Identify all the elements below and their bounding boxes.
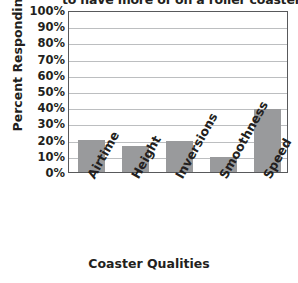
y-axis-tick-label: 10% (22, 151, 65, 162)
y-axis-tick-label: 50% (22, 87, 65, 98)
x-axis-title: Coaster Qualities (0, 256, 298, 271)
y-axis-tick-label: 80% (22, 38, 65, 49)
y-axis-tick-label: 100% (22, 6, 65, 17)
y-axis-tick-label: 90% (22, 22, 65, 33)
y-axis-tick-label: 30% (22, 119, 65, 130)
y-axis-tick-label: 60% (22, 70, 65, 81)
y-axis-tick-label: 40% (22, 103, 65, 114)
x-axis-tick-labels: AirtimeHeightInversionsSmoothnessSpeed (68, 174, 288, 248)
y-axis-tick-label: 70% (22, 54, 65, 65)
y-axis-tick-labels: 100%90%80%70%60%50%40%30%20%10%0% (22, 11, 65, 173)
y-axis-tick-label: 20% (22, 135, 65, 146)
chart-title: to have more of on a roller coaster? (62, 0, 298, 7)
y-axis-tick-label: 0% (22, 168, 65, 179)
